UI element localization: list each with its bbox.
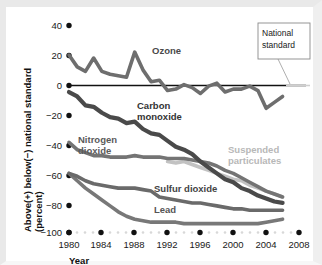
x-tick-label: 1992 [156, 239, 177, 250]
callout-text-line2: standard [262, 40, 295, 50]
series-label-nitrogen-dioxide-line2: dioxide [78, 145, 111, 156]
y-tick-label: −40 [46, 140, 62, 151]
series-label-nitrogen-dioxide-line1: Nitrogen [78, 134, 117, 145]
series-label-ozone: Ozone [152, 45, 181, 56]
series-label-suspended-particulates-line1: Suspended [228, 144, 279, 155]
y-tick-label: −60 [46, 170, 62, 181]
y-axis-title: Above(+) below(−) national standard (per… [22, 68, 44, 232]
national-standard-callout: National standard [258, 23, 310, 84]
x-tick-label: 1996 [189, 239, 210, 250]
figure-frame: 40 20 0 −20 −40 −60 −80 −100 [0, 0, 322, 265]
y-tick-label: −20 [46, 110, 62, 121]
series-line-ozone [69, 52, 283, 108]
y-axis-title-line1: Above(+) below(−) national standard [22, 68, 33, 232]
x-tick-label: 1984 [90, 239, 111, 250]
x-axis-title: Year [69, 255, 89, 265]
series-label-carbon-monoxide-line1: Carbon [137, 100, 170, 111]
callout-text-line1: National [262, 28, 293, 38]
y-tick-label: 40 [51, 20, 62, 31]
x-tick-label: 1988 [123, 239, 144, 250]
series-label-lead: Lead [154, 204, 176, 215]
x-tick-label: 2004 [255, 239, 276, 250]
series-label-suspended-particulates-line2: particulates [228, 155, 281, 166]
y-tick-label: −80 [46, 200, 62, 211]
x-tick-label: 2008 [288, 239, 309, 250]
x-axis-minor-dots [76, 231, 293, 234]
series-label-sulfur-dioxide: Sulfur dioxide [154, 183, 217, 194]
x-tick-label: 1980 [58, 239, 79, 250]
y-axis-title-line2: (percent) [33, 191, 44, 232]
callout-leader-line [278, 59, 290, 84]
y-tick-label: 20 [51, 50, 62, 61]
x-tick-label: 2000 [222, 239, 243, 250]
x-axis-tick-labels: 1980 1984 1988 1992 1996 2000 2004 2008 [58, 239, 309, 250]
y-tick-label: 0 [57, 80, 62, 91]
series-label-carbon-monoxide-line2: monoxide [137, 111, 182, 122]
line-chart: 40 20 0 −20 −40 −60 −80 −100 [6, 7, 322, 265]
